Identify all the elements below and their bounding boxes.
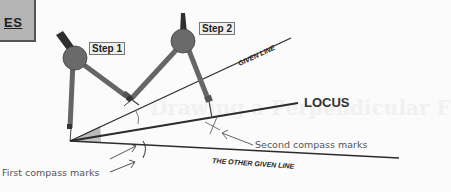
first-marks-arrow-overlay: [0, 0, 399, 192]
